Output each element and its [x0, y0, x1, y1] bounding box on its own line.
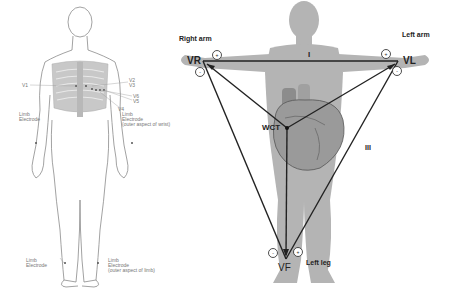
- vf-wct-line: [286, 128, 287, 255]
- label-v2-v3: V2 V3: [129, 78, 135, 88]
- label-left-leg: Left leg: [306, 259, 331, 266]
- polarity-sign: +: [216, 52, 219, 58]
- label-v5: V5: [133, 99, 139, 104]
- einthoven-triangle-figure: + - + - - + Right arm Left arm Left leg …: [165, 0, 467, 299]
- label-right-arm: Right arm: [179, 35, 212, 42]
- electrode-right-leg: [64, 262, 66, 264]
- polarity-sign: +: [385, 51, 388, 57]
- label-left-arm: Left arm: [402, 31, 430, 38]
- label-limb-electrode-wrist: Limb Electrode (outer aspect of wrist): [122, 112, 170, 127]
- electrode-left-wrist: [131, 142, 133, 144]
- wct-point: [285, 126, 289, 130]
- electrode-right-wrist: [35, 142, 37, 144]
- lead-3-label: III: [365, 144, 371, 151]
- label-limb-electrode-arm: Limb Electrode: [19, 112, 40, 122]
- electrode-v3: [91, 88, 93, 90]
- electrode-vl-label: VL: [403, 55, 416, 66]
- electrode-v2: [85, 85, 87, 87]
- label-limb-electrode-leg-left: Limb Electrode (outer aspect of limb): [108, 258, 155, 273]
- lead-1-label: I: [308, 50, 310, 59]
- body-outline-drawing: [0, 0, 165, 299]
- rib-cage: [52, 61, 108, 117]
- electrode-v4: [95, 89, 97, 91]
- polarity-sign: +: [297, 249, 300, 255]
- electrode-vr-label: VR: [187, 55, 201, 66]
- electrode-vf-label: VF: [278, 262, 291, 273]
- label-limb-electrode-leg-right: Limb Electrode: [26, 258, 47, 268]
- wct-label: WCT: [262, 123, 280, 132]
- label-v1: V1: [22, 83, 28, 88]
- electrode-left-leg: [97, 262, 99, 264]
- body-silhouette: + - + - - +: [165, 0, 467, 299]
- electrode-placement-figure: V1 V2 V3 V6 V5 V4 Limb Electrode Limb El…: [0, 0, 165, 299]
